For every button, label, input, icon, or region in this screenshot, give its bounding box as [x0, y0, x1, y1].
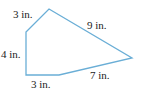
label-top-right-side: 9 in. [87, 20, 107, 31]
pentagon-shape [26, 9, 132, 75]
label-left-side: 4 in. [1, 49, 21, 60]
label-top-left-side: 3 in. [13, 9, 33, 20]
label-bottom-side: 3 in. [31, 79, 51, 90]
label-bottom-right-side: 7 in. [90, 70, 110, 81]
